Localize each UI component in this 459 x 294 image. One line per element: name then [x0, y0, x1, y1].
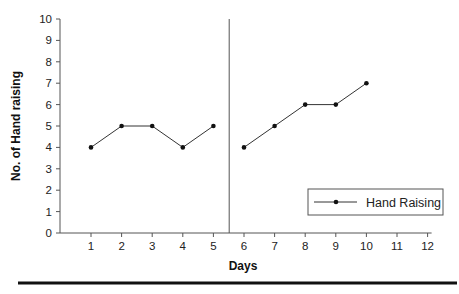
data-point	[364, 81, 369, 86]
x-tick-label: 3	[149, 240, 155, 252]
y-tick-label: 2	[46, 184, 52, 196]
data-point	[181, 145, 186, 150]
y-tick-label: 1	[46, 206, 52, 218]
y-tick-label: 4	[46, 141, 53, 153]
y-tick-label: 0	[46, 227, 52, 239]
legend-label: Hand Raising	[366, 196, 441, 210]
y-axis-title: No. of Hand raising	[9, 71, 23, 181]
x-tick-label: 8	[302, 240, 308, 252]
data-point	[89, 145, 94, 150]
x-tick-label: 6	[241, 240, 247, 252]
data-point	[334, 102, 339, 107]
data-point	[242, 145, 247, 150]
legend: Hand Raising	[308, 189, 443, 215]
x-tick-label: 7	[271, 240, 277, 252]
x-tick-label: 2	[118, 240, 124, 252]
data-point	[150, 124, 155, 129]
y-tick-label: 9	[46, 34, 52, 46]
y-tick-label: 5	[46, 120, 52, 132]
data-point	[272, 124, 277, 129]
x-tick-label: 1	[88, 240, 94, 252]
y-tick-label: 8	[46, 56, 52, 68]
data-point	[303, 102, 308, 107]
y-tick-label: 7	[46, 77, 52, 89]
x-tick-label: 10	[360, 240, 373, 252]
x-tick-label: 9	[333, 240, 339, 252]
x-tick-label: 12	[421, 240, 434, 252]
line-chart: 012345678910123456789101112 Days No. of …	[0, 0, 459, 294]
x-tick-label: 5	[210, 240, 216, 252]
data-point	[119, 124, 124, 129]
y-tick-label: 6	[46, 99, 52, 111]
series-line	[244, 83, 366, 147]
legend-marker-icon	[334, 200, 339, 205]
data-point	[211, 124, 216, 129]
x-tick-label: 4	[180, 240, 187, 252]
y-tick-label: 10	[39, 13, 52, 25]
y-tick-label: 3	[46, 163, 52, 175]
x-axis-title: Days	[229, 259, 258, 273]
series-line	[91, 126, 213, 147]
axes: 012345678910123456789101112	[39, 13, 434, 252]
x-tick-label: 11	[391, 240, 403, 252]
